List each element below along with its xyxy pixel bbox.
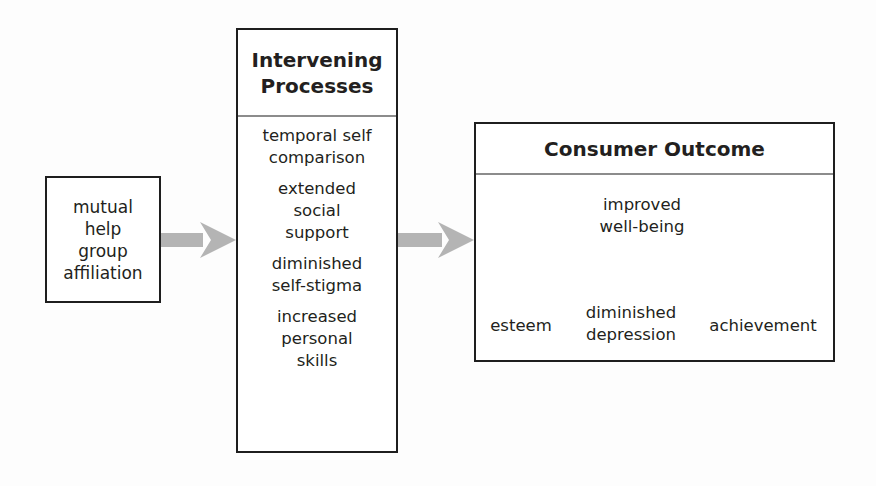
outcome-root-well-being: improved well-being xyxy=(582,194,702,238)
outcome-branch-achievement: achievement xyxy=(700,315,826,337)
process-item: diminished self-stigma xyxy=(238,253,396,297)
input-box-label: mutual help group affiliation xyxy=(63,196,142,284)
process-item: increased personal skills xyxy=(238,306,396,372)
process-box-title: Intervening Processes xyxy=(238,30,396,117)
process-items-list: temporal self comparison extended social… xyxy=(238,117,396,372)
input-box-mutual-help: mutual help group affiliation xyxy=(45,176,161,303)
outcome-branch-diminished-depression: diminished depression xyxy=(575,302,687,346)
outcome-branch-esteem: esteem xyxy=(484,315,558,337)
outcome-box-title: Consumer Outcome xyxy=(476,124,833,175)
process-box: Intervening Processes temporal self comp… xyxy=(236,28,398,453)
process-item: extended social support xyxy=(238,178,396,244)
arrow-input-to-process xyxy=(161,222,236,258)
arrow-process-to-outcome xyxy=(398,222,474,258)
process-item: temporal self comparison xyxy=(238,125,396,169)
